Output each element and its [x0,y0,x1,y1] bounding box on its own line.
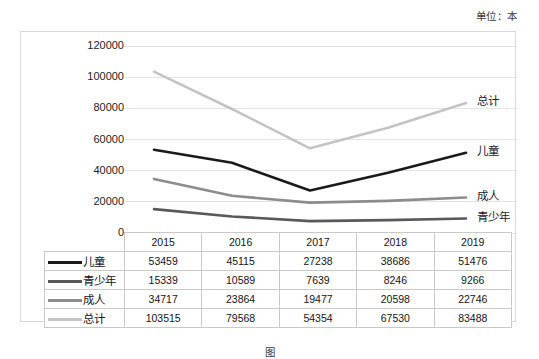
series-line-青少年 [154,209,466,221]
legend-swatch-icon [48,280,82,283]
table-row-legend-青少年: 青少年 [45,271,125,290]
table-cell: 7639 [279,271,356,290]
legend-swatch-icon [48,261,82,264]
table-cell: 79568 [202,309,279,328]
table-cell: 103515 [125,309,202,328]
y-tick-label-100000: 100000 [50,71,124,82]
table-row: 青少年1533910589763982469266 [45,271,512,290]
table-header: 20152016201720182019 [45,233,512,252]
unit-note: 单位：本 [476,8,517,23]
legend-swatch-icon [48,299,82,302]
table-column-header-2017: 2017 [279,233,356,252]
table-cell: 19477 [279,290,356,309]
series-label-成人: 成人 [477,191,499,203]
series-label-青少年: 青少年 [477,212,510,224]
table-corner-cell [45,233,125,252]
table-cell: 9266 [434,271,511,290]
table-cell: 22746 [434,290,511,309]
y-tick-label-20000: 20000 [50,195,124,206]
table-cell: 67530 [357,309,434,328]
data-table: 20152016201720182019 儿童53459451152723838… [44,232,512,328]
table-cell: 27238 [279,252,356,271]
series-line-儿童 [154,150,466,191]
table-column-header-2019: 2019 [434,233,511,252]
y-tick-label-40000: 40000 [50,164,124,175]
table-column-header-2018: 2018 [357,233,434,252]
table-cell: 23864 [202,290,279,309]
series-label-总计: 总计 [477,96,499,108]
legend-label: 儿童 [83,256,105,268]
figure-caption: 图 [0,344,539,359]
y-tick-label-60000: 60000 [50,133,124,144]
table-cell: 15339 [125,271,202,290]
table-row: 总计10351579568543546753083488 [45,309,512,328]
table-body: 儿童5345945115272383868651476青少年1533910589… [45,252,512,328]
table-cell: 38686 [357,252,434,271]
legend-swatch-icon [48,318,82,321]
table-row-legend-总计: 总计 [45,309,125,328]
table-cell: 54354 [279,309,356,328]
table-cell: 83488 [434,309,511,328]
legend-label: 青少年 [83,275,116,287]
table-cell: 34717 [125,290,202,309]
y-tick-label-80000: 80000 [50,102,124,113]
table-cell: 10589 [202,271,279,290]
table-row: 成人3471723864194772059822746 [45,290,512,309]
table-cell: 51476 [434,252,511,271]
legend-label: 成人 [83,294,105,306]
y-tick-label-120000: 120000 [50,40,124,51]
table-column-header-2016: 2016 [202,233,279,252]
series-label-儿童: 儿童 [477,146,499,158]
table-row-legend-成人: 成人 [45,290,125,309]
table-header-row: 20152016201720182019 [45,233,512,252]
table-cell: 53459 [125,252,202,271]
table-cell: 45115 [202,252,279,271]
table-row: 儿童5345945115272383868651476 [45,252,512,271]
table-column-header-2015: 2015 [125,233,202,252]
table-cell: 8246 [357,271,434,290]
series-line-总计 [154,72,466,149]
table-row-legend-儿童: 儿童 [45,252,125,271]
legend-label: 总计 [83,313,105,325]
table-cell: 20598 [357,290,434,309]
gridlines [125,46,517,233]
series-lines [154,72,466,221]
